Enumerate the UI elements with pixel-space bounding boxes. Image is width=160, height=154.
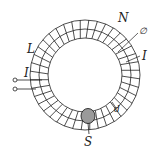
winding-turn xyxy=(112,39,127,50)
cross-section-leader xyxy=(88,123,89,134)
winding-turn xyxy=(64,24,70,41)
winding-turn xyxy=(97,24,105,40)
winding-turn xyxy=(64,110,72,126)
winding-turn xyxy=(43,100,58,111)
winding-turn xyxy=(34,54,50,62)
label-current-left: I xyxy=(23,66,29,80)
winding-turn xyxy=(118,54,135,60)
inner-edge xyxy=(48,38,122,112)
terminal-bottom xyxy=(13,87,17,91)
label-turns-N: N xyxy=(117,11,129,25)
winding-turn xyxy=(101,108,107,125)
label-cross-section-S: S xyxy=(84,135,92,149)
winding-turn xyxy=(57,107,68,122)
winding-turn xyxy=(117,93,132,104)
winding-turn xyxy=(106,106,114,122)
label-wire-diameter-d: d xyxy=(114,104,120,114)
winding-turn xyxy=(49,33,60,48)
winding-turn xyxy=(38,96,54,104)
winding-turn xyxy=(34,91,51,97)
winding-turn xyxy=(120,87,136,95)
winding-turn xyxy=(103,28,114,43)
terminal-top xyxy=(13,78,17,82)
toroidal-coil-diagram: N ∅ L I I d S xyxy=(0,0,160,154)
label-current-right: I xyxy=(141,49,147,63)
winding-turn xyxy=(38,47,53,58)
cross-section-area xyxy=(81,109,95,124)
winding-turn xyxy=(56,28,64,44)
label-diameter-symbol: ∅ xyxy=(139,26,148,36)
label-inductance-L: L xyxy=(26,42,35,56)
